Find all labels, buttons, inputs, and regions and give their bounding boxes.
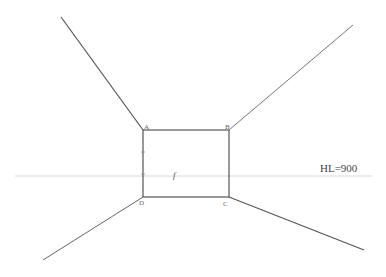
center-mark: f: [173, 170, 177, 180]
corner-label-b: B: [225, 123, 230, 131]
front-face-rectangle: [143, 130, 229, 197]
receding-line-lower-left: [43, 197, 143, 260]
corner-label-a: A: [144, 123, 149, 131]
horizon-label: HL=900: [320, 162, 357, 174]
receding-line-lower-right: [229, 197, 364, 250]
corner-label-c: C: [223, 200, 228, 208]
receding-line-upper-left: [61, 17, 143, 130]
receding-line-upper-right: [229, 25, 353, 130]
corner-label-d: D: [139, 199, 144, 207]
perspective-diagram: A B D C f: [0, 0, 386, 277]
